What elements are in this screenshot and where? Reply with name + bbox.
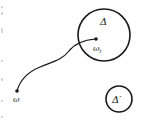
diagram-canvas: Δ Δ′ ω ωt (0, 0, 146, 127)
point-omega-t-label: ωt (93, 44, 103, 54)
point-omega-t-subscript: t (100, 48, 103, 54)
left-edge-marks (1, 6, 3, 118)
region-delta-label: Δ (99, 16, 107, 27)
point-omega-label: ω (13, 95, 20, 104)
region-delta-prime-label: Δ′ (111, 94, 122, 105)
point-omega-t (94, 37, 98, 41)
trajectory-path (17, 39, 96, 91)
point-omega (15, 89, 19, 93)
